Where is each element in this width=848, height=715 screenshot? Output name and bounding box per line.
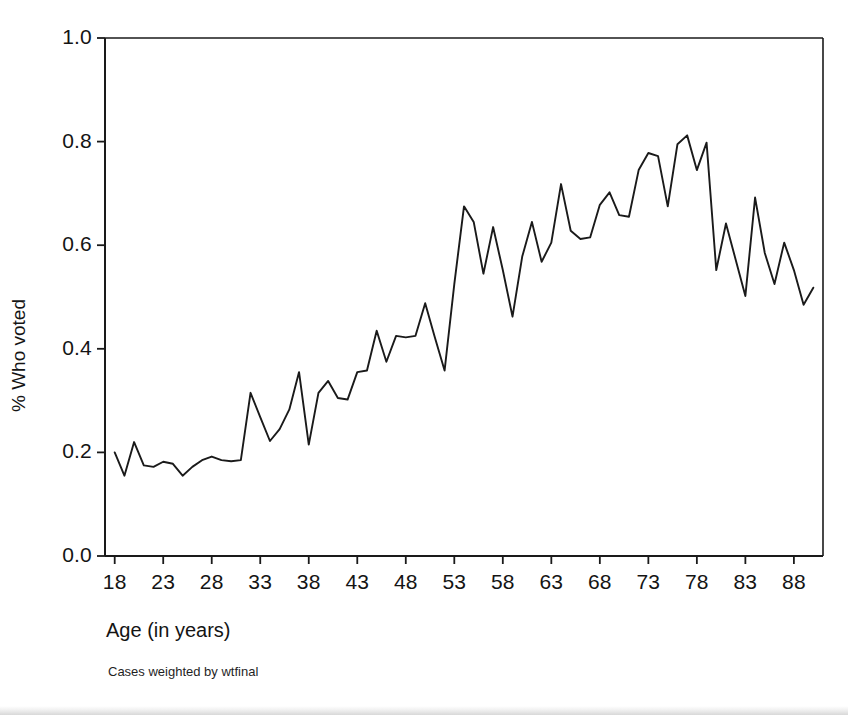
y-tick-label: 1.0 [30,25,92,49]
data-layer [115,135,814,475]
y-tick-label: 0.8 [30,129,92,153]
figure-container: 0.00.20.40.60.81.0 182328333843485358636… [0,0,848,715]
page-edge-shadow [0,706,848,715]
y-tick-label: 0.4 [30,336,92,360]
x-axis-title: Age (in years) [106,619,231,642]
x-tick-label: 88 [764,570,824,594]
x-tick-marks [115,556,794,564]
y-tick-label: 0.0 [30,543,92,567]
plot-frame [105,38,823,556]
y-axis-title: % Who voted [8,212,30,412]
y-tick-label: 0.2 [30,439,92,463]
line-series-percent-who-voted [115,135,814,475]
chart-footnote: Cases weighted by wtfinal [108,664,258,679]
y-tick-label: 0.6 [30,232,92,256]
y-tick-marks [97,38,105,556]
chart-canvas [0,0,848,715]
